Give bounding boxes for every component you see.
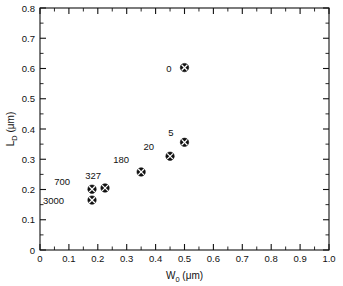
y-tick-label: 0 [30,245,35,256]
y-tick-label: 0.7 [22,33,35,44]
y-tick-label: 0.6 [22,63,35,74]
y-axis-title-unit: (μm) [5,112,16,136]
x-tick-label: 0.2 [91,253,104,264]
data-point-labels: 05201803277003000 [43,63,174,206]
x-axis-title-unit: (μm) [180,270,204,281]
scatter-plot: 00.10.20.30.40.50.60.70.80.91.0 00.10.20… [0,0,343,286]
x-tick-label: 0.7 [236,253,249,264]
data-point-label: 700 [54,176,70,187]
data-point [88,196,96,204]
plot-frame [40,8,329,250]
x-tick-label: 0.8 [265,253,278,264]
y-tick-label: 0.4 [22,124,35,135]
y-tick-label: 0.2 [22,184,35,195]
plot-border [40,8,329,250]
y-tick-label: 0.3 [22,154,35,165]
y-tick-label: 0.5 [22,93,35,104]
y-tick-label: 0.1 [22,214,35,225]
x-axis-tick-labels: 00.10.20.30.40.50.60.70.80.91.0 [37,253,335,264]
y-axis-tick-labels: 00.10.20.30.40.50.60.70.8 [22,3,35,256]
x-tick-label: 0.1 [62,253,75,264]
chart-figure: 00.10.20.30.40.50.60.70.80.91.0 00.10.20… [0,0,343,286]
x-tick-label: 0.6 [207,253,220,264]
y-tick-label: 0.8 [22,3,35,14]
x-tick-label: 0.3 [120,253,133,264]
data-point [166,152,174,160]
x-axis-title-text: W0 (μm) [166,270,203,284]
x-tick-label: 0 [37,253,42,264]
data-point-label: 0 [166,63,171,74]
data-point-label: 5 [168,127,173,138]
axis-ticks [40,8,329,250]
data-point-label: 20 [143,141,154,152]
y-axis-title-text: LD (μm) [5,112,19,147]
data-points [88,63,189,204]
data-point-label: 3000 [43,195,64,206]
y-axis-title: LD (μm) [5,112,19,147]
x-tick-label: 0.5 [178,253,191,264]
data-point-label: 327 [85,170,101,181]
x-tick-label: 1.0 [322,253,335,264]
x-tick-label: 0.9 [293,253,306,264]
x-tick-label: 0.4 [149,253,162,264]
data-point-label: 180 [113,154,129,165]
data-point [101,184,109,192]
data-point [180,63,188,71]
data-point [88,185,96,193]
data-point [180,138,188,146]
data-point [137,168,145,176]
x-axis-title: W0 (μm) [166,270,203,284]
